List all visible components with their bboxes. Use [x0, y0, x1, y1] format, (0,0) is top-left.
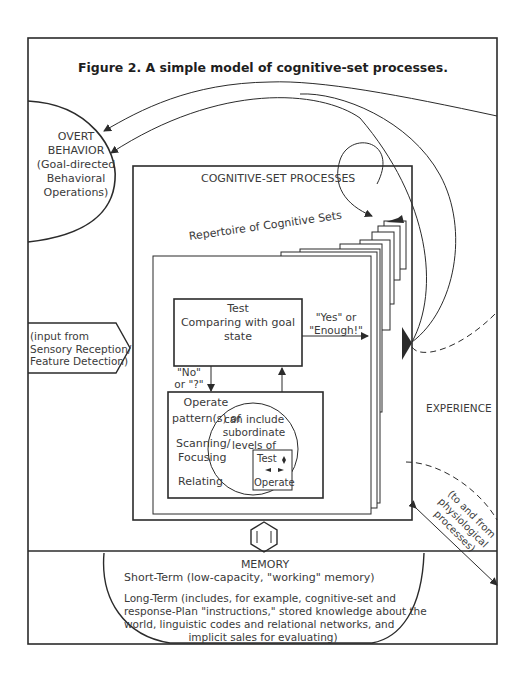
operate-relating: Relating: [178, 475, 223, 489]
circle-label: can include subordinate levels of: [215, 413, 293, 452]
test-box-label: Test Comparing with goal state: [174, 302, 302, 344]
operate-focusing: Focusing: [178, 451, 226, 465]
memory-short-term: Short-Term (low-capacity, "working" memo…: [124, 571, 375, 585]
operate-title: Operate: [168, 396, 244, 410]
cognitive-set-processes-label: COGNITIVE-SET PROCESSES: [201, 172, 355, 186]
experience-marker: [402, 327, 412, 360]
yes-label: "Yes" or "Enough!": [308, 311, 364, 337]
memory-double-arrow: [251, 522, 277, 552]
figure-title: Figure 2. A simple model of cognitive-se…: [0, 60, 526, 75]
input-label: (input from Sensory Reception/ Feature D…: [30, 330, 131, 368]
experience-label: EXPERIENCE: [426, 401, 492, 415]
overt-behavior-label: OVERT BEHAVIOR (Goal-directed Behavioral…: [36, 130, 116, 200]
memory-long-term: Long-Term (includes, for example, cognit…: [104, 592, 422, 644]
feedback-arc-outer: [104, 82, 497, 131]
mini-operate-label: Operate: [254, 476, 295, 490]
no-label: "No" or "?": [170, 366, 208, 390]
experience-dashed-arc: [412, 312, 497, 352]
mini-test-label: Test: [257, 452, 277, 466]
memory-title: MEMORY: [200, 558, 330, 572]
